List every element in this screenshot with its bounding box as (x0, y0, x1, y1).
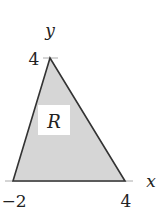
region-label: R (46, 111, 61, 132)
x-axis-label: x (146, 171, 156, 191)
region-diagram: R y x 4 −2 4 (0, 0, 164, 213)
y-axis-label: y (44, 20, 55, 40)
y-tick-4: 4 (29, 49, 40, 69)
x-tick-4: 4 (121, 191, 132, 211)
x-tick-neg2: −2 (1, 191, 26, 211)
